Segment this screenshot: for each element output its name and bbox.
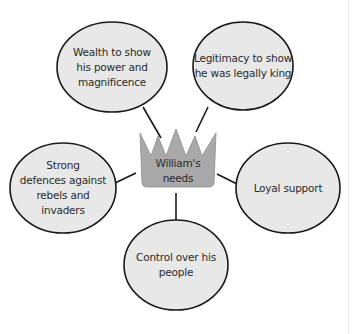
node-control-label: Control over his people bbox=[126, 242, 226, 288]
node-legitimacy-label: Legitimacy to show he was legally king bbox=[193, 36, 293, 96]
connector-defences bbox=[115, 173, 136, 183]
connector-wealth bbox=[143, 107, 161, 138]
node-loyal-label: Loyal support bbox=[238, 172, 338, 204]
spider-diagram: William's needs Wealth to show his power… bbox=[0, 0, 359, 334]
center-label: William's needs bbox=[142, 156, 214, 186]
connector-legitimacy bbox=[196, 107, 208, 132]
connector-loyal bbox=[217, 174, 237, 184]
node-defences-label: Strong defences against rebels and invad… bbox=[12, 150, 114, 226]
node-wealth-label: Wealth to show his power and magnificenc… bbox=[60, 30, 164, 104]
